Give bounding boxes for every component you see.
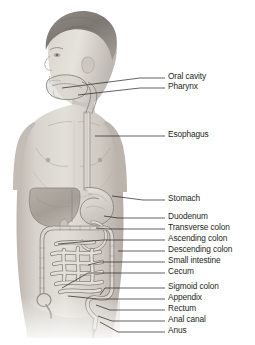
label-stomach: Stomach xyxy=(168,194,200,202)
label-ascending-colon: Ascending colon xyxy=(168,234,227,242)
label-esophagus: Esophagus xyxy=(168,130,209,138)
label-transverse-colon: Transverse colon xyxy=(168,223,230,231)
label-appendix: Appendix xyxy=(168,293,202,301)
label-duodenum: Duodenum xyxy=(168,212,208,220)
label-small-intestine: Small intestine xyxy=(168,256,220,264)
label-anal-canal: Anal canal xyxy=(168,315,206,323)
digestive-system-figure: Oral cavityPharynxEsophagusStomachDuoden… xyxy=(0,0,255,345)
head xyxy=(45,11,117,120)
esophagus-organ xyxy=(84,112,90,190)
label-anus: Anus xyxy=(168,326,187,334)
label-sigmoid-colon: Sigmoid colon xyxy=(168,282,219,290)
label-pharynx: Pharynx xyxy=(168,82,198,90)
label-rectum: Rectum xyxy=(168,304,196,312)
label-cecum: Cecum xyxy=(168,267,194,275)
anatomy-illustration xyxy=(0,0,255,345)
label-oral-cavity: Oral cavity xyxy=(168,72,206,80)
label-descending-colon: Descending colon xyxy=(168,245,232,253)
